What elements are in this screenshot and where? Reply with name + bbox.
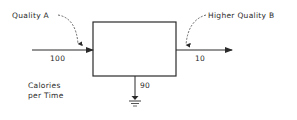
output-quality-label: Higher Quality B bbox=[208, 11, 274, 20]
quality-a-pointer bbox=[58, 15, 78, 44]
output-value-label: 10 bbox=[195, 54, 205, 63]
units-label-line2: per Time bbox=[28, 91, 64, 100]
units-label-line1: Calories bbox=[28, 81, 61, 90]
process-box bbox=[93, 22, 176, 76]
heat-sink-value-label: 90 bbox=[140, 81, 150, 90]
heat-sink-icon bbox=[129, 96, 141, 106]
energy-transformation-diagram: Quality A 100 Higher Quality B 10 90 Cal… bbox=[0, 0, 297, 120]
input-quality-label: Quality A bbox=[12, 11, 50, 20]
input-value-label: 100 bbox=[50, 54, 65, 63]
quality-b-pointer bbox=[186, 15, 206, 45]
